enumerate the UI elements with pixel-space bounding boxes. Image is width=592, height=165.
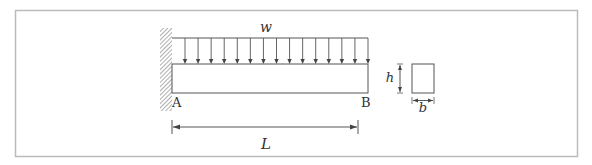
length-label: L: [260, 135, 271, 153]
height-label: h: [386, 70, 394, 85]
load-arrow-head-icon: [248, 59, 252, 64]
cross-section: [412, 64, 434, 93]
load-arrow-head-icon: [314, 59, 318, 64]
width-arrow-right-icon: [428, 99, 433, 103]
load-arrow-head-icon: [340, 59, 344, 64]
beam: [172, 64, 368, 93]
load-arrow-head-icon: [209, 59, 213, 64]
load-arrow-head-icon: [274, 59, 278, 64]
load-arrow-head-icon: [366, 59, 370, 64]
point-a-label: A: [171, 95, 182, 110]
load-arrow-head-icon: [235, 59, 239, 64]
load-arrow-head-icon: [327, 59, 331, 64]
load-arrow-head-icon: [183, 59, 187, 64]
height-arrow-bottom-icon: [398, 87, 402, 92]
cantilever-diagram: w A B L h b: [0, 0, 592, 165]
load-arrow-head-icon: [353, 59, 357, 64]
load-arrow-head-icon: [222, 59, 226, 64]
height-arrow-top-icon: [398, 65, 402, 70]
load-arrow-head-icon: [261, 59, 265, 64]
load-arrow-head-icon: [287, 59, 291, 64]
load-label: w: [260, 19, 272, 35]
point-b-label: B: [361, 95, 371, 110]
width-arrow-left-icon: [413, 99, 418, 103]
width-label: b: [419, 100, 427, 115]
fixed-wall-support: [160, 28, 172, 111]
load-arrow-head-icon: [300, 59, 304, 64]
length-arrow-left-icon: [173, 125, 180, 130]
distributed-load-arrows: [183, 38, 370, 64]
figure-frame: [16, 11, 578, 157]
load-arrow-head-icon: [196, 59, 200, 64]
length-arrow-right-icon: [350, 125, 357, 130]
